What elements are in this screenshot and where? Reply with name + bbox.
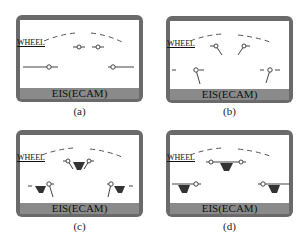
eis-ecam-bar: EIS(ECAM) bbox=[20, 203, 139, 214]
caption-b: (b) bbox=[166, 105, 293, 117]
panel-d: WHEEL EIS(ECAM) bbox=[166, 130, 293, 217]
panel-a: WHEEL EIS(ECAM) bbox=[16, 15, 143, 102]
caption-d: (d) bbox=[166, 220, 293, 232]
caption-c: (c) bbox=[16, 220, 143, 232]
panel-b: WHEEL EIS(ECAM) bbox=[166, 16, 293, 103]
caption-a: (a) bbox=[16, 105, 143, 117]
eis-ecam-bar: EIS(ECAM) bbox=[20, 88, 139, 99]
eis-ecam-bar: EIS(ECAM) bbox=[170, 203, 289, 214]
panel-c: WHEEL EIS(ECAM) bbox=[16, 130, 143, 217]
eis-ecam-bar: EIS(ECAM) bbox=[170, 89, 289, 100]
